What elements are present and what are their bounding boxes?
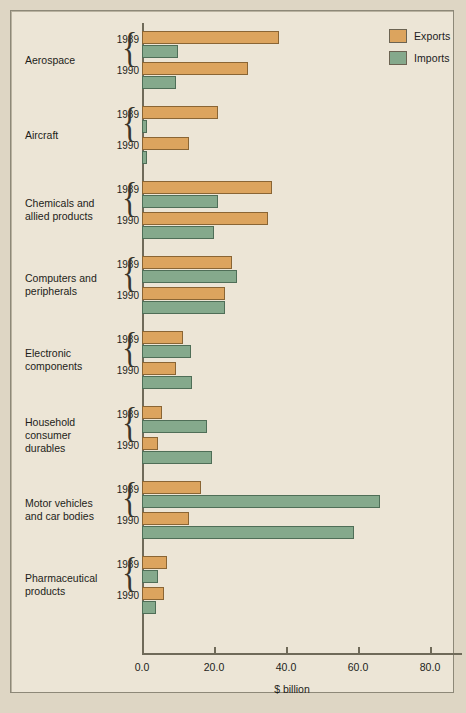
bar-imports-1989 (142, 120, 147, 133)
x-tick (358, 647, 360, 653)
category-label-line: Motor vehicles (25, 497, 121, 510)
x-tick-label: 0.0 (120, 661, 164, 673)
x-tick-label: 40.0 (264, 661, 308, 673)
category-label: Motor vehiclesand car bodies (25, 497, 121, 523)
chart-page: ExportsImports 0.020.040.060.080.0 $ bil… (0, 0, 466, 713)
category-label-line: Aerospace (25, 54, 121, 67)
bar-imports-1990 (142, 226, 214, 239)
bar-imports-1989 (142, 420, 207, 433)
bar-imports-1989 (142, 45, 178, 58)
x-axis-title: $ billion (142, 683, 442, 695)
category-label-line: Electronic (25, 347, 121, 360)
x-tick-label: 20.0 (192, 661, 236, 673)
category-label: Computers andperipherals (25, 272, 121, 298)
group-brace: { (122, 325, 131, 383)
bar-exports-1990 (142, 362, 176, 375)
x-tick (142, 647, 144, 653)
category-label: Pharmaceuticalproducts (25, 572, 121, 598)
group-brace: { (122, 175, 131, 233)
bar-imports-1989 (142, 195, 218, 208)
group-brace: { (122, 475, 131, 533)
category-label-line: consumer (25, 429, 121, 442)
category-label: Electroniccomponents (25, 347, 121, 373)
group-brace: { (122, 250, 131, 308)
category-label-line: Chemicals and (25, 197, 121, 210)
category-label: Aircraft (25, 129, 121, 142)
category-label-line: Aircraft (25, 129, 121, 142)
bar-exports-1989 (142, 481, 201, 494)
bar-imports-1990 (142, 151, 147, 164)
bar-exports-1989 (142, 556, 167, 569)
bar-exports-1990 (142, 512, 189, 525)
category-label-line: products (25, 585, 121, 598)
x-tick-label: 80.0 (408, 661, 452, 673)
bar-imports-1990 (142, 301, 225, 314)
category-label-line: Household (25, 416, 121, 429)
category-label-line: durables (25, 442, 121, 455)
category-label-line: Computers and (25, 272, 121, 285)
bar-exports-1989 (142, 106, 218, 119)
x-tick (286, 647, 288, 653)
bar-exports-1990 (142, 587, 164, 600)
bar-exports-1990 (142, 137, 189, 150)
bar-exports-1989 (142, 256, 232, 269)
group-brace: { (122, 25, 131, 83)
category-label-line: peripherals (25, 285, 121, 298)
group-brace: { (122, 400, 131, 458)
category-label-line: Pharmaceutical (25, 572, 121, 585)
bar-imports-1990 (142, 526, 354, 539)
category-label-line: components (25, 360, 121, 373)
bar-exports-1989 (142, 331, 183, 344)
x-tick (430, 647, 432, 653)
x-axis: 0.020.040.060.080.0 (142, 653, 462, 655)
category-label: Chemicals andallied products (25, 197, 121, 223)
bar-imports-1989 (142, 570, 158, 583)
category-label-line: and car bodies (25, 510, 121, 523)
x-tick (214, 647, 216, 653)
chart-frame: ExportsImports 0.020.040.060.080.0 $ bil… (10, 10, 454, 693)
bar-imports-1989 (142, 270, 237, 283)
bar-imports-1990 (142, 376, 192, 389)
bar-imports-1990 (142, 76, 176, 89)
category-label-line: allied products (25, 210, 121, 223)
group-brace: { (122, 550, 131, 608)
bar-exports-1990 (142, 437, 158, 450)
bar-exports-1989 (142, 406, 162, 419)
bar-imports-1990 (142, 451, 212, 464)
bar-imports-1989 (142, 495, 380, 508)
bar-imports-1989 (142, 345, 191, 358)
category-label: Householdconsumerdurables (25, 416, 121, 455)
bar-exports-1989 (142, 181, 272, 194)
group-brace: { (122, 100, 131, 158)
x-tick-label: 60.0 (336, 661, 380, 673)
category-label: Aerospace (25, 54, 121, 67)
bar-exports-1989 (142, 31, 279, 44)
bar-imports-1990 (142, 601, 156, 614)
bar-exports-1990 (142, 62, 248, 75)
plot-area (142, 23, 442, 653)
bar-exports-1990 (142, 212, 268, 225)
bar-exports-1990 (142, 287, 225, 300)
